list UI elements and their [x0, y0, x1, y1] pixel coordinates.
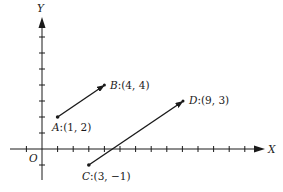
y-axis-arrow-icon	[39, 17, 46, 28]
vector-ab	[56, 84, 106, 119]
origin-label: O	[29, 152, 38, 164]
x-axis-arrow-icon	[254, 146, 265, 153]
x-axis-label: X	[267, 143, 276, 155]
coordinate-diagram: X Y O A:(1, 2) B:(4, 4) C:(3, −1) D:(9, …	[0, 0, 283, 192]
y-axis-label: Y	[37, 2, 45, 14]
point-b-dot	[103, 84, 106, 87]
point-b-label: B:(4, 4)	[109, 79, 150, 91]
point-c-label: C:(3, −1)	[82, 170, 131, 182]
point-c-dot	[87, 163, 91, 167]
point-d-dot	[182, 100, 185, 103]
point-d-label: D:(9, 3)	[188, 94, 229, 106]
point-a-dot	[56, 115, 60, 119]
y-axis: Y	[37, 2, 46, 180]
x-axis: X	[10, 143, 276, 155]
point-a-label: A:(1, 2)	[51, 121, 91, 133]
vector-cd	[87, 100, 185, 167]
